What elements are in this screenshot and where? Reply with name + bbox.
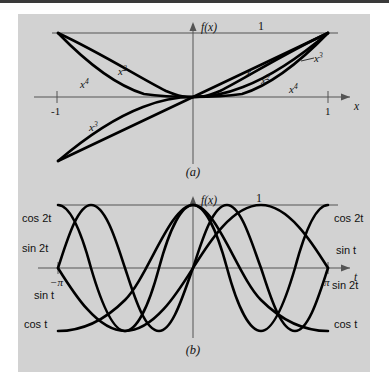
- curve-label-left-x-fourth: x4: [79, 77, 89, 90]
- tick-label-minus-one-a: -1: [51, 105, 60, 117]
- panel-caption-b: (b): [186, 343, 201, 357]
- curve-label-left-x-squared: x2: [117, 64, 127, 77]
- curve-label-left-cos-2t: cos 2t: [22, 212, 51, 224]
- x-axis-label-a: x: [353, 100, 360, 112]
- y-axis-arrow-b: [190, 196, 197, 205]
- tick-label-minus-pi-b: −π: [50, 276, 63, 288]
- tick-label-one-a: 1: [325, 105, 331, 117]
- curve-label-right-x: x: [245, 66, 251, 78]
- unit-label-b: 1: [256, 192, 262, 205]
- curve-label-right-sin-t: sin t: [336, 244, 356, 256]
- curve-label-right-sin-2t: sin 2t: [332, 279, 358, 291]
- curve-label-right-x-fourth: x4: [288, 82, 298, 95]
- x-axis-arrow-b: [341, 265, 350, 272]
- top-edge-band: [0, 0, 389, 3]
- panel-b-plot: 1 f(x) t −π π cos 2t sin 2t sin t cos t …: [18, 192, 370, 372]
- curve-label-right-x-cubed: x3: [313, 51, 323, 64]
- curve-label-right-cos-t: cos t: [334, 318, 357, 330]
- figure-panel: 1 f(x) x -1 1 x2 x4 x3 x x2 x3 x4 (a): [18, 14, 370, 372]
- curve-label-left-sin-t: sin t: [34, 289, 54, 301]
- tick-label-pi-b: π: [324, 276, 330, 288]
- curve-label-right-cos-2t: cos 2t: [334, 212, 363, 224]
- y-axis-label-a: f(x): [201, 21, 217, 34]
- curve-label-right-x-squared: x2: [260, 73, 270, 86]
- y-axis-arrow-a: [190, 22, 197, 31]
- panel-caption-a: (a): [186, 165, 201, 179]
- curve-label-left-cos-t: cos t: [24, 318, 47, 330]
- y-axis-label-b: f(x): [201, 194, 217, 207]
- unit-label-a: 1: [258, 19, 264, 33]
- curve-label-left-sin-2t: sin 2t: [22, 242, 48, 254]
- panel-a-plot: 1 f(x) x -1 1 x2 x4 x3 x x2 x3 x4 (a): [18, 14, 370, 192]
- x-axis-arrow-a: [341, 94, 350, 101]
